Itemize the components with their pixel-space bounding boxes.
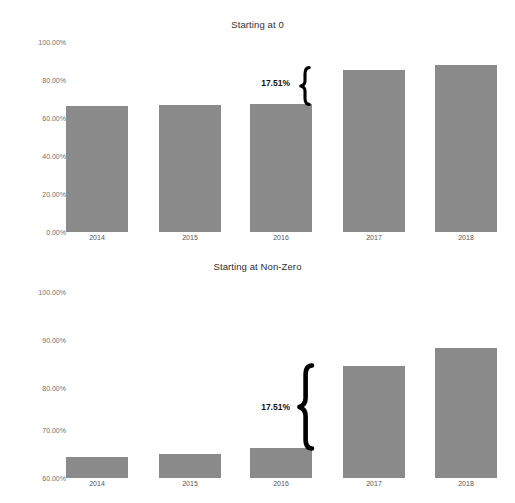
x-axis-tick-label-2014: 2014 [66,234,128,241]
y-axis-tick-label: 60.00% [8,115,66,122]
y-axis-tick-label: 20.00% [8,191,66,198]
bar-2016[interactable] [250,448,312,478]
brace-icon [296,363,318,451]
y-axis-tick-label: 100.00% [8,289,66,296]
chart-panel-starting-at-non-zero: Starting at Non-Zero 100.00% 90.00% 80.0… [0,255,515,503]
x-axis-tick-label-2018: 2018 [435,234,497,241]
x-axis-tick-label-2017: 2017 [343,480,405,487]
bar-2014[interactable] [66,106,128,232]
y-axis-tick-label: 40.00% [8,153,66,160]
bar-2018[interactable] [435,348,497,478]
x-axis-tick-label-2018: 2018 [435,480,497,487]
bar-2017[interactable] [343,70,405,232]
x-axis-tick-label-2015: 2015 [159,234,221,241]
y-axis-tick-label: 60.00% [8,475,66,482]
annotation-label-difference: 17.51% [240,402,290,412]
bar-2015[interactable] [159,454,221,478]
x-axis-tick-label-2016: 2016 [250,234,312,241]
bar-2015[interactable] [159,105,221,232]
bar-2016[interactable] [250,104,312,232]
x-axis-tick-label-2015: 2015 [159,480,221,487]
bar-2014[interactable] [66,457,128,478]
bar-2017[interactable] [343,366,405,478]
y-axis-tick-label: 80.00% [8,77,66,84]
x-axis-tick-label-2014: 2014 [66,480,128,487]
chart-panel-starting-at-zero: Starting at 0 100.00% 80.00% 60.00% 40.0… [0,0,515,255]
y-axis-tick-label: 80.00% [8,385,66,392]
bar-2018[interactable] [435,65,497,232]
annotation-label-difference: 17.51% [240,78,290,88]
plot-area: 100.00% 80.00% 60.00% 40.00% 20.00% 0.00… [0,0,515,255]
x-axis-tick-label-2016: 2016 [250,480,312,487]
y-axis-tick-label: 70.00% [8,427,66,434]
x-axis-tick-label-2017: 2017 [343,234,405,241]
brace-icon [296,66,314,106]
y-axis-tick-label: 0.00% [8,229,66,236]
y-axis-tick-label: 90.00% [8,337,66,344]
plot-area: 100.00% 90.00% 80.00% 70.00% 60.00% 2014… [0,255,515,503]
y-axis-tick-label: 100.00% [8,39,66,46]
